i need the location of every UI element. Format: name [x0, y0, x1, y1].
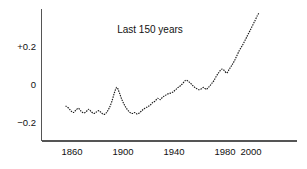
- x-tick-label-4: 2000: [240, 146, 261, 157]
- y-tick-label-0: +0.2: [17, 41, 36, 52]
- x-tick-label-2: 1940: [163, 146, 184, 157]
- x-tick-label-3: 1980: [214, 146, 235, 157]
- chart-title: Last 150 years: [117, 24, 183, 35]
- y-tick-label-2: −0.2: [17, 117, 36, 128]
- temperature-anomaly-chart: Last 150 years +0.2 0 −0.2 1860 1900 194…: [0, 0, 307, 169]
- x-tick-label-1: 1900: [112, 146, 133, 157]
- y-tick-label-1: 0: [31, 79, 36, 90]
- chart-screenshot: Last 150 years +0.2 0 −0.2 1860 1900 194…: [0, 0, 307, 169]
- x-tick-label-0: 1860: [61, 146, 82, 157]
